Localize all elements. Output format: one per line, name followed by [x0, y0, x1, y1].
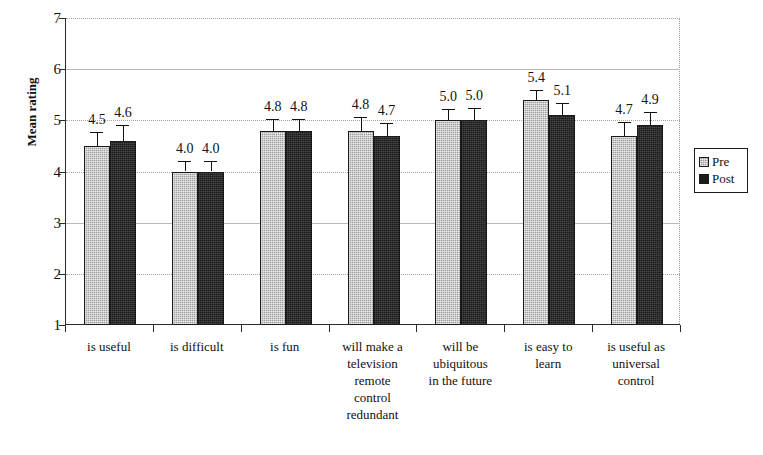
bar-post [286, 131, 312, 325]
y-tick-label-6: 6 [33, 62, 61, 77]
bar-pre [260, 131, 286, 325]
legend-label-post: Post [712, 172, 734, 185]
x-tick-mark [153, 325, 154, 332]
legend-item-pre: Pre [699, 153, 743, 170]
legend-swatch-pre-icon [699, 157, 709, 167]
x-category-label-line: in the future [406, 372, 514, 389]
legend-item-post: Post [699, 170, 743, 187]
error-bar [536, 90, 537, 100]
bar-value-label: 4.8 [279, 100, 319, 114]
x-category-label-line: redundant [319, 406, 427, 423]
bar-group: 4.84.7 [348, 18, 400, 324]
bar-post [549, 115, 575, 325]
y-tick-label-3: 3 [33, 216, 61, 231]
error-bar-cap [354, 117, 367, 118]
bar-pre [84, 146, 110, 325]
x-tick-mark-origin [65, 325, 66, 332]
error-bar [273, 119, 274, 130]
bar-group: 4.74.9 [611, 18, 663, 324]
bar-post [110, 141, 136, 325]
bar-value-label: 5.4 [516, 71, 556, 85]
bar-group: 4.04.0 [172, 18, 224, 324]
legend-label-pre: Pre [712, 155, 729, 168]
error-bar-cap [618, 122, 631, 123]
error-bar [97, 132, 98, 146]
error-bar [387, 123, 388, 136]
error-bar [123, 125, 124, 140]
y-tick-label-2: 2 [33, 267, 61, 282]
error-bar-cap [468, 108, 481, 109]
bar-post [461, 120, 487, 325]
x-tick-mark [416, 325, 417, 332]
bar-pre [348, 131, 374, 325]
x-tick-mark [592, 325, 593, 332]
bar-post [637, 125, 663, 325]
x-tick-mark [504, 325, 505, 332]
y-tick-label-4: 4 [33, 165, 61, 180]
bar-value-label: 5.1 [542, 84, 582, 98]
error-bar [474, 108, 475, 120]
error-bar [562, 103, 563, 115]
bar-group: 5.05.0 [435, 18, 487, 324]
plot-area: 4.54.64.04.04.84.84.84.75.05.05.45.14.74… [65, 18, 680, 325]
bar-post [374, 136, 400, 325]
x-tick-mark [680, 325, 681, 332]
bar-value-label: 4.6 [103, 106, 143, 120]
x-tick-mark [241, 325, 242, 332]
x-category-label-line: control [319, 389, 427, 406]
error-bar-cap [204, 161, 217, 162]
error-bar [185, 161, 186, 172]
bar-post [198, 172, 224, 326]
error-bar-cap [380, 123, 393, 124]
bar-value-label: 4.9 [630, 93, 670, 107]
error-bar-cap [530, 90, 543, 91]
x-category-label: is useful asuniversalcontrol [582, 338, 690, 389]
x-tick-mark [329, 325, 330, 332]
bar-value-label: 5.0 [454, 89, 494, 103]
error-bar [448, 109, 449, 121]
error-bar [299, 119, 300, 130]
bar-pre [523, 100, 549, 325]
bar-pre [435, 120, 461, 325]
error-bar-cap [556, 103, 569, 104]
x-category-label-line: control [582, 372, 690, 389]
bar-chart-figure: Mean rating 1234567 4.54.64.04.04.84.84.… [0, 0, 763, 455]
x-category-label-line: universal [582, 355, 690, 372]
error-bar-cap [442, 109, 455, 110]
error-bar [650, 112, 651, 125]
error-bar-cap [266, 119, 279, 120]
error-bar-cap [644, 112, 657, 113]
error-bar-cap [178, 161, 191, 162]
y-tick-label-7: 7 [33, 11, 61, 26]
error-bar [211, 161, 212, 172]
error-bar [361, 117, 362, 131]
error-bar-cap [116, 125, 129, 126]
bar-group: 4.54.6 [84, 18, 136, 324]
x-category-label-line: is useful as [582, 338, 690, 355]
bar-pre [172, 172, 198, 326]
bar-pre [611, 136, 637, 325]
bar-group: 4.84.8 [260, 18, 312, 324]
y-tick-label-1: 1 [33, 318, 61, 333]
legend: Pre Post [694, 148, 748, 193]
bar-value-label: 4.7 [367, 104, 407, 118]
bar-group: 5.45.1 [523, 18, 575, 324]
legend-swatch-post-icon [699, 174, 709, 184]
y-tick-label-5: 5 [33, 113, 61, 128]
bar-value-label: 4.0 [191, 142, 231, 156]
error-bar-cap [292, 119, 305, 120]
error-bar-cap [90, 132, 103, 133]
error-bar [624, 122, 625, 135]
